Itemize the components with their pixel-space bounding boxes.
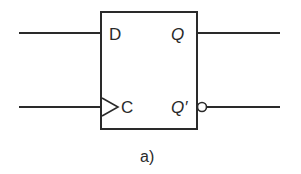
caption: a) [140,148,154,165]
q-label: Q [171,25,184,44]
inversion-bubble-icon [198,103,207,112]
d-flip-flop-diagram: D C Q Q′ a) [0,0,301,174]
clock-triangle-icon [102,98,118,116]
q-bar-label: Q′ [171,98,188,117]
d-label: D [109,25,121,44]
c-label: C [121,98,133,117]
